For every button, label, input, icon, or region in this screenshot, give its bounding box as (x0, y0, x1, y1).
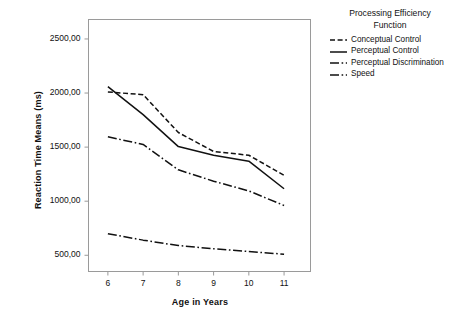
legend-line-swatch (330, 35, 347, 44)
legend-entry-label: Perceptual Discrimination (351, 58, 444, 68)
legend-entry-label: Speed (351, 69, 375, 79)
legend-title-line-1: Processing Efficiency (330, 8, 450, 20)
legend-entry[interactable]: Speed (330, 69, 456, 81)
legend-title: Processing Efficiency Function (330, 8, 450, 31)
legend-entry-label: Conceptual Control (351, 35, 421, 45)
legend-entries: Conceptual ControlPerceptual ControlPerc… (330, 34, 456, 80)
legend: Processing Efficiency Function Conceptua… (330, 8, 456, 80)
reaction-time-line-chart: Reaction Time Means (ms) Age in Years 50… (0, 0, 456, 323)
legend-title-line-2: Function (330, 20, 450, 32)
legend-line-swatch (330, 70, 347, 79)
legend-entry[interactable]: Perceptual Discrimination (330, 57, 456, 69)
y-axis-ticks (85, 39, 89, 255)
x-axis-ticks (108, 272, 284, 276)
legend-line-swatch (330, 58, 347, 67)
legend-entry[interactable]: Perceptual Control (330, 46, 456, 58)
legend-entry-label: Perceptual Control (351, 46, 419, 56)
legend-entry[interactable]: Conceptual Control (330, 34, 456, 46)
legend-line-swatch (330, 47, 347, 56)
plot-frame (89, 20, 311, 272)
